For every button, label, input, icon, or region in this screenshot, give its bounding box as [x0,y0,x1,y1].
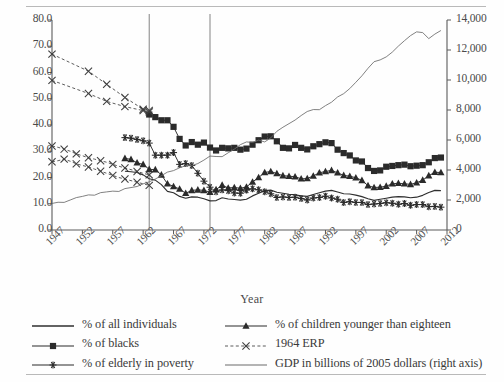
x-axis-title: Year [0,292,504,307]
right-axis-tick: 2,000 [456,192,481,204]
legend-item-label: % of all individuals [82,317,177,332]
left-axis-tick: 80.0 [33,12,52,24]
figure-page: 0.010.020.030.040.050.060.070.080.0 02,0… [0,0,504,382]
right-axis-tick: 14,000 [456,12,486,24]
legend-item-label: 1964 ERP [275,336,324,351]
asterisk-marker-line-icon [30,357,76,369]
legend-item: % of all individuals [30,316,223,332]
square-marker-line-icon [30,338,76,350]
legend-item-label: % of blacks [82,336,139,351]
triangle-marker-line-icon [223,318,269,330]
right-axis-tick: 4,000 [456,162,481,174]
legend-item-label: % of elderly in poverty [82,356,194,371]
page-rule-top [26,6,486,7]
plain-line-icon [30,318,76,330]
left-axis-tick: 30.0 [33,143,52,155]
chart-plot-area [0,14,504,264]
right-axis-tick: 12,000 [456,42,486,54]
chart-legend: % of all individuals% of blacks% of elde… [30,316,480,371]
right-axis-tick: 6,000 [456,132,481,144]
series-dashed-x-marker-line [48,51,152,189]
legend-item: 1964 ERP [223,336,478,352]
left-axis-tick: 70.0 [33,38,52,50]
legend-item: % of elderly in poverty [30,355,223,371]
legend-item: GDP in billions of 2005 dollars (right a… [223,355,478,371]
poverty-gdp-chart [0,14,504,264]
legend-item-label: % of children younger than eighteen [275,317,451,332]
thin-line-icon [223,357,269,369]
series-triangle-marker-line [121,155,444,197]
left-axis-tick: 50.0 [33,91,52,103]
legend-column-2: % of children younger than eighteen1964 … [223,316,478,371]
left-axis-tick: 40.0 [33,117,52,129]
dashed-x-marker-line-icon [223,338,269,350]
chart-series [48,31,444,211]
legend-item-label: GDP in billions of 2005 dollars (right a… [275,356,482,371]
left-axis-tick: 10.0 [33,196,52,208]
right-axis-tick: 8,000 [456,102,481,114]
legend-item: % of children younger than eighteen [223,316,478,332]
left-axis-tick: 60.0 [33,65,52,77]
chart-axes [48,20,451,234]
left-axis-tick: 20.0 [33,170,52,182]
right-axis-tick: 10,000 [456,72,486,84]
page-rule-bottom [26,374,486,375]
legend-column-1: % of all individuals% of blacks% of elde… [30,316,223,371]
legend-item: % of blacks [30,336,223,352]
